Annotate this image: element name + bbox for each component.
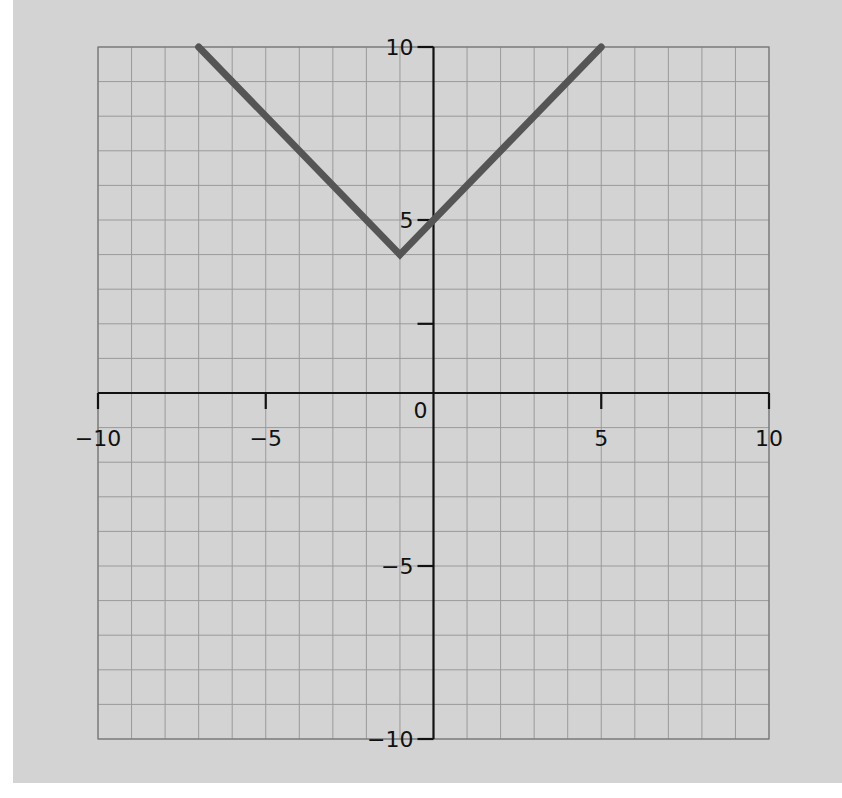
origin-label: 0	[414, 398, 428, 423]
x-tick-label: 5	[594, 426, 608, 451]
y-tick-label: −5	[381, 554, 413, 579]
x-tick-label: 10	[755, 426, 783, 451]
y-tick-label: 10	[386, 35, 414, 60]
x-tick-label: −5	[250, 426, 282, 451]
y-tick-label: −10	[367, 727, 413, 752]
y-tick-label: 5	[400, 208, 414, 233]
x-tick-label: −10	[75, 426, 121, 451]
coordinate-plane: −10−5510−10−55100	[0, 0, 842, 798]
